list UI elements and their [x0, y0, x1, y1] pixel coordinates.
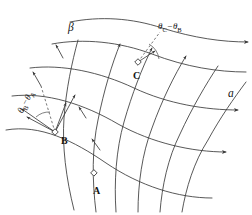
figure-canvas — [0, 0, 252, 215]
tangent-vector-b-2 — [22, 109, 55, 132]
beta-arrow-tick — [79, 107, 86, 118]
beta-curve — [63, 40, 78, 210]
angle-arcs — [36, 44, 159, 117]
dashed-reference-lines — [41, 32, 160, 132]
angle-arc-at-b — [36, 112, 50, 117]
dashed-line-at-c — [138, 32, 160, 62]
beta-curve — [182, 82, 246, 212]
point-label-a: A — [93, 186, 100, 196]
theta-b-subscript-2: B — [177, 26, 181, 33]
point-label-c: C — [133, 71, 140, 81]
beta-characteristic-curves — [63, 40, 246, 212]
beta-arrow-tick — [56, 45, 63, 58]
angle-label-c-minus-b: θC−θB — [158, 22, 182, 31]
point-marker-c — [135, 59, 142, 66]
beta-arrow-tick — [92, 139, 100, 150]
alpha-family-label: a — [228, 88, 234, 100]
characteristics-net-figure: β a B A C θB−θA θC−θB — [0, 0, 252, 215]
beta-family-label: β — [68, 22, 74, 34]
alpha-curve — [6, 129, 212, 198]
point-label-b: B — [61, 136, 68, 146]
dashed-line-at-b — [41, 86, 55, 132]
tangent-vector-b-3 — [55, 95, 75, 132]
minus-theta-glyph-2: −θ — [167, 21, 178, 31]
beta-curve — [138, 56, 186, 212]
alpha-characteristic-curves — [6, 19, 248, 198]
beta-arrow-tick — [33, 72, 41, 86]
point-marker-a — [91, 170, 98, 177]
